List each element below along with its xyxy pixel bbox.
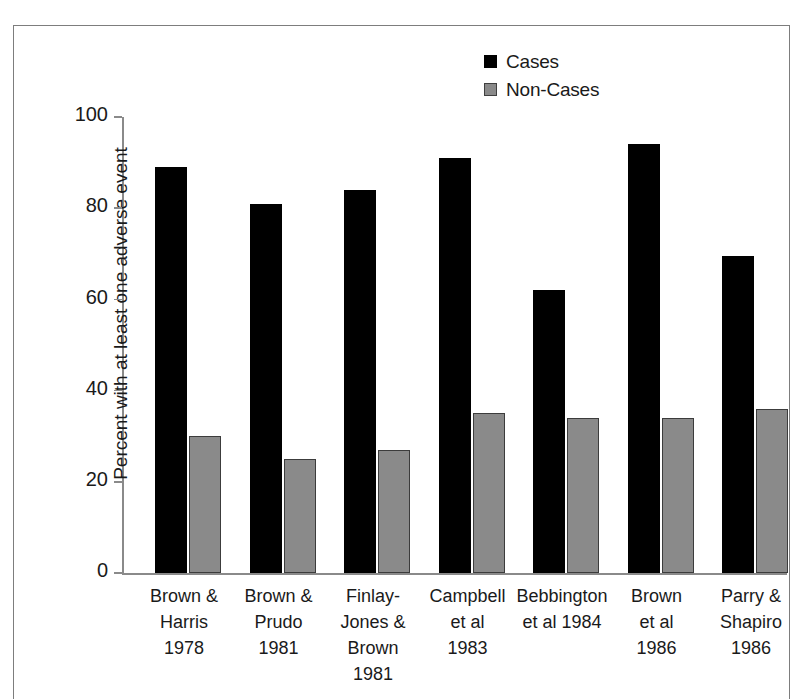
y-tick: 40 bbox=[114, 390, 122, 392]
legend-label-cases: Cases bbox=[506, 52, 559, 71]
x-tick-label-line: Brown bbox=[325, 635, 421, 661]
x-tick-label-line: Brown & bbox=[231, 583, 327, 609]
x-tick-label: Brownet al1986 bbox=[609, 583, 705, 661]
bar-non-cases bbox=[662, 418, 694, 573]
legend-label-non-cases: Non-Cases bbox=[506, 80, 599, 99]
y-tick-label: 20 bbox=[86, 469, 108, 489]
y-tick-mark bbox=[114, 481, 122, 483]
bar-cases bbox=[155, 167, 187, 573]
legend-item-cases: Cases bbox=[484, 48, 684, 74]
legend-swatch-cases-icon bbox=[484, 55, 497, 68]
bar-group: Brownet al1986 bbox=[609, 117, 704, 573]
x-tick-label-line: et al 1984 bbox=[514, 609, 610, 635]
x-tick-label-line: Brown bbox=[609, 583, 705, 609]
bar-group: Bebbingtonet al 1984 bbox=[514, 117, 609, 573]
x-tick-label: Finlay-Jones &Brown1981 bbox=[325, 583, 421, 687]
bar-group: Campbellet al1983 bbox=[420, 117, 515, 573]
y-tick-label: 60 bbox=[86, 287, 108, 307]
bar-non-cases bbox=[378, 450, 410, 573]
x-tick-label: Brown &Harris1978 bbox=[136, 583, 232, 661]
bar-non-cases bbox=[473, 413, 505, 573]
y-tick-mark bbox=[114, 572, 122, 574]
bar-cases bbox=[439, 158, 471, 573]
bar-cases bbox=[722, 256, 754, 573]
bar-group: Parry &Shapiro1986 bbox=[703, 117, 796, 573]
y-tick-mark bbox=[114, 207, 122, 209]
x-tick-label-line: 1981 bbox=[231, 635, 327, 661]
x-axis-line bbox=[122, 573, 787, 575]
bar-non-cases bbox=[567, 418, 599, 573]
x-tick-label-line: 1986 bbox=[609, 635, 705, 661]
y-tick-mark bbox=[114, 390, 122, 392]
x-tick-label: Brown &Prudo1981 bbox=[231, 583, 327, 661]
figure-frame: Cases Non-Cases Percent with at least on… bbox=[13, 25, 790, 699]
bar-cases bbox=[250, 204, 282, 573]
legend-swatch-non-cases-icon bbox=[484, 83, 497, 96]
bar-non-cases bbox=[284, 459, 316, 573]
y-tick-label: 40 bbox=[86, 378, 108, 398]
x-tick-label-line: Bebbington bbox=[514, 583, 610, 609]
x-tick-label-line: Prudo bbox=[231, 609, 327, 635]
plot-area: Percent with at least one adverse event … bbox=[122, 114, 787, 576]
y-tick: 100 bbox=[114, 116, 122, 118]
x-tick-label-line: Jones & bbox=[325, 609, 421, 635]
x-tick-label: Parry &Shapiro1986 bbox=[703, 583, 796, 661]
x-tick-label-line: 1981 bbox=[325, 661, 421, 687]
y-tick: 20 bbox=[114, 481, 122, 483]
x-tick-label-line: 1978 bbox=[136, 635, 232, 661]
x-tick-label-line: Finlay- bbox=[325, 583, 421, 609]
y-axis-title: Percent with at least one adverse event bbox=[111, 0, 130, 694]
x-tick-label-line: Brown & bbox=[136, 583, 232, 609]
y-tick-label: 100 bbox=[75, 104, 108, 124]
bar-cases bbox=[344, 190, 376, 573]
y-tick-mark bbox=[114, 299, 122, 301]
bar-group: Brown &Prudo1981 bbox=[231, 117, 326, 573]
bar-cases bbox=[533, 290, 565, 573]
x-tick-label-line: Campbell bbox=[420, 583, 516, 609]
x-tick-label-line: 1983 bbox=[420, 635, 516, 661]
chart-legend: Cases Non-Cases bbox=[484, 48, 684, 104]
bar-group: Finlay-Jones &Brown1981 bbox=[325, 117, 420, 573]
bar-cases bbox=[628, 144, 660, 573]
x-tick-label: Campbellet al1983 bbox=[420, 583, 516, 661]
y-tick: 60 bbox=[114, 299, 122, 301]
bar-group: Brown &Harris1978 bbox=[136, 117, 231, 573]
legend-item-non-cases: Non-Cases bbox=[484, 76, 684, 102]
y-tick: 80 bbox=[114, 207, 122, 209]
x-tick-label-line: 1986 bbox=[703, 635, 796, 661]
bar-non-cases bbox=[189, 436, 221, 573]
x-tick-label-line: Harris bbox=[136, 609, 232, 635]
x-tick-label-line: Shapiro bbox=[703, 609, 796, 635]
y-tick-label: 80 bbox=[86, 195, 108, 215]
y-tick: 0 bbox=[114, 572, 122, 574]
x-tick-label: Bebbingtonet al 1984 bbox=[514, 583, 610, 635]
y-tick-label: 0 bbox=[97, 560, 108, 580]
bar-non-cases bbox=[756, 409, 788, 573]
x-tick-label-line: et al bbox=[420, 609, 516, 635]
x-tick-label-line: Parry & bbox=[703, 583, 796, 609]
x-tick-label-line: et al bbox=[609, 609, 705, 635]
y-tick-mark bbox=[114, 116, 122, 118]
